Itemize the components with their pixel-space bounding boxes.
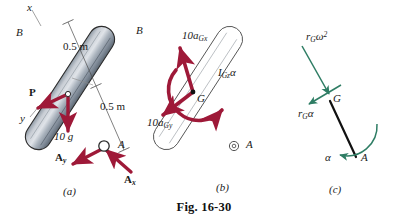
dimension-lower-label: 0.5 m	[100, 101, 125, 112]
pin-inner-a	[232, 144, 236, 148]
angular-acceleration-arc	[340, 124, 377, 156]
axis-x-line	[32, 10, 41, 26]
moment-couple-label: IGzα	[218, 67, 236, 79]
ma-gy-label: 10aGy	[147, 117, 172, 129]
tangential-acceleration-label: rGα	[298, 108, 313, 120]
normal-acceleration-arrow	[302, 46, 329, 94]
panel-a-free-body-diagram: x B 0.5 m 0.5 m P y 10 g A Ay Ax (a)	[0, 0, 140, 221]
force-p-label: P	[29, 87, 36, 98]
dimension-tick-top	[63, 20, 74, 25]
panel-b-caption: (b)	[216, 182, 229, 193]
panel-a-caption: (a)	[63, 186, 76, 197]
angular-acceleration-label: α	[325, 152, 331, 163]
center-of-mass-point	[65, 91, 70, 96]
weight-label: 10 g	[54, 131, 73, 142]
figure-16-30: x B 0.5 m 0.5 m P y 10 g A Ay Ax (a)	[0, 0, 408, 221]
panel-c-caption: (c)	[329, 184, 341, 195]
axis-x-label: x	[27, 2, 32, 13]
reaction-ay-arrow	[73, 148, 104, 164]
point-b-label: B	[16, 27, 23, 38]
pin-support-a	[99, 141, 109, 151]
dimension-upper-label: 0.5 m	[63, 41, 88, 52]
reaction-ay-label: Ay	[55, 152, 66, 164]
figure-caption: Fig. 16-30	[0, 200, 408, 215]
panel-b-kinetic-diagram: B 10aGx IGzα G 10aGy A (b)	[130, 0, 275, 221]
axis-y-label: y	[20, 113, 25, 124]
ma-gx-label: 10aGx	[182, 30, 207, 42]
point-a-label: A	[118, 139, 125, 150]
panel-c-acceleration-diagram: rGω2 G rGα α A (c)	[272, 0, 408, 221]
center-of-mass-point	[191, 90, 196, 95]
point-b-label: B	[136, 25, 143, 36]
point-g-label: G	[333, 93, 341, 104]
point-a-label: A	[361, 152, 368, 163]
point-g-label: G	[197, 93, 205, 104]
point-a-label: A	[246, 139, 253, 150]
normal-acceleration-label: rGω2	[306, 31, 327, 44]
bar-line-ga	[330, 101, 356, 157]
dimension-tick-mid	[91, 84, 102, 89]
reaction-ax-arrow	[106, 150, 131, 172]
